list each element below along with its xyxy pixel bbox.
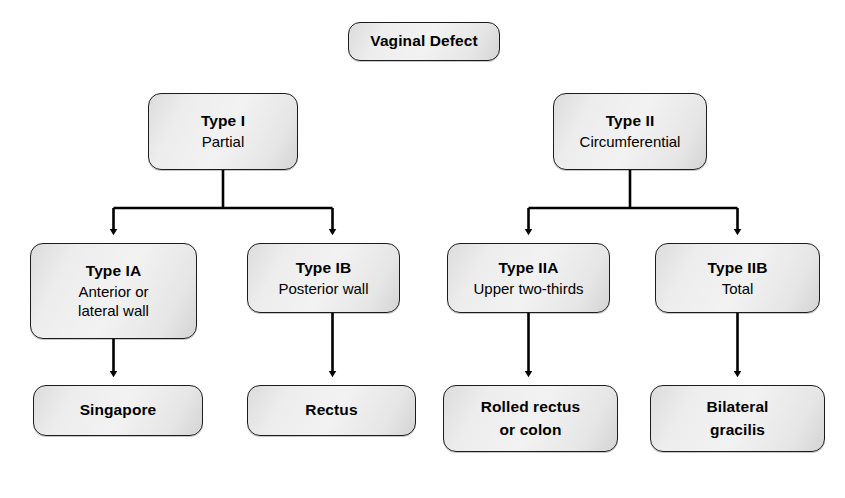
node-type-1a-subtitle-line1: Anterior or [78, 283, 148, 301]
node-type-1b[interactable]: Type IB Posterior wall [247, 243, 400, 313]
node-type-2a-subtitle: Upper two-thirds [473, 280, 583, 298]
node-type-1b-title: Type IB [296, 259, 352, 277]
node-type-2-subtitle: Circumferential [580, 133, 681, 151]
node-type-2a-title: Type IIA [499, 259, 559, 277]
edge-type1-branch [114, 170, 333, 232]
node-type-2b-subtitle: Total [722, 280, 754, 298]
node-type-1[interactable]: Type I Partial [148, 93, 298, 170]
node-type-2[interactable]: Type II Circumferential [553, 93, 707, 170]
node-vaginal-defect-title: Vaginal Defect [370, 32, 477, 50]
node-type-1a[interactable]: Type IA Anterior or lateral wall [30, 243, 197, 339]
node-bilateral-gracilis-title-line1: Bilateral [706, 398, 768, 416]
flowchart-diagram: Vaginal Defect Type I Partial Type II Ci… [0, 0, 845, 498]
node-type-2b[interactable]: Type IIB Total [655, 243, 820, 313]
node-type-1a-subtitle-line2: lateral wall [78, 302, 149, 320]
node-vaginal-defect[interactable]: Vaginal Defect [348, 22, 500, 61]
node-type-2-title: Type II [606, 112, 655, 130]
node-type-1-title: Type I [201, 112, 245, 130]
node-singapore-title: Singapore [80, 401, 157, 419]
node-rectus[interactable]: Rectus [247, 385, 416, 436]
node-type-2a[interactable]: Type IIA Upper two-thirds [447, 243, 610, 313]
node-rolled-rectus-title-line2: or colon [500, 421, 562, 439]
node-bilateral-gracilis-title-line2: gracilis [710, 421, 765, 439]
node-rolled-rectus-or-colon[interactable]: Rolled rectus or colon [443, 385, 618, 452]
node-bilateral-gracilis[interactable]: Bilateral gracilis [650, 385, 825, 452]
node-type-2b-title: Type IIB [708, 259, 768, 277]
node-rolled-rectus-title-line1: Rolled rectus [481, 398, 581, 416]
node-type-1a-title: Type IA [86, 262, 142, 280]
node-type-1-subtitle: Partial [202, 133, 245, 151]
edge-type2-branch [529, 170, 738, 232]
node-singapore[interactable]: Singapore [33, 385, 203, 436]
node-rectus-title: Rectus [305, 401, 357, 419]
node-type-1b-subtitle: Posterior wall [278, 280, 368, 298]
